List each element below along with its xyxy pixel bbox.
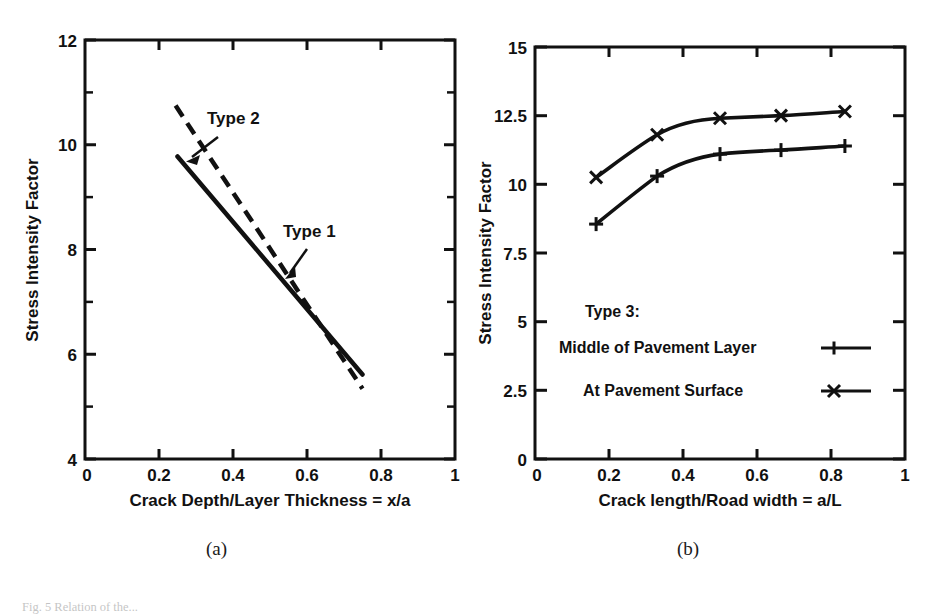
chart-panel-b: 0 2.5 5 7.5 10 12.5 15 0 0.2 0.4 0.6 0.8…: [473, 0, 946, 580]
legend-title-type-3: Type 3:: [585, 303, 640, 320]
y-tick-label-a-3: 10: [58, 136, 77, 155]
series-line-at-pavement-surface: [596, 112, 845, 178]
x-tick-label-a-1: 0.2: [147, 466, 171, 485]
y-axis-right-ticks-a: [444, 40, 455, 459]
x-tick-label-a-0: 0: [82, 466, 91, 485]
x-tick-label-b-5: 1: [900, 466, 909, 485]
y-tick-label-a-1: 6: [68, 346, 77, 365]
annotation-type-1-label: Type 1: [283, 222, 336, 241]
y-tick-label-b-4: 10: [508, 176, 527, 195]
legend-marker-at-pavement-surface: [821, 385, 871, 397]
x-tick-label-b-1: 0.2: [597, 466, 621, 485]
x-tick-label-a-5: 1: [450, 466, 459, 485]
subplot-label-b: (b): [677, 538, 699, 560]
y-axis-title-b: Stress Intensity Factor: [476, 161, 495, 345]
y-axis-ticks-b: [535, 47, 547, 459]
x-tick-label-a-3: 0.6: [295, 466, 319, 485]
y-tick-label-a-2: 8: [68, 241, 77, 260]
subplot-label-a: (a): [206, 538, 227, 560]
x-tick-label-b-0: 0: [532, 466, 541, 485]
y-tick-label-b-0: 0: [518, 451, 527, 470]
series-markers-at-pavement-surface: [590, 106, 851, 184]
y-tick-label-b-6: 15: [508, 39, 527, 58]
annotation-type-2-label: Type 2: [207, 109, 260, 128]
panel-a-svg: 4 6 8 10 12 0 0.2 0.4 0.6 0.8 1 Stress I…: [0, 0, 473, 580]
x-tick-label-a-2: 0.4: [221, 466, 245, 485]
y-tick-label-b-2: 5: [518, 313, 527, 332]
y-tick-label-b-5: 12.5: [494, 107, 527, 126]
figure-root: 4 6 8 10 12 0 0.2 0.4 0.6 0.8 1 Stress I…: [0, 0, 946, 614]
y-tick-label-b-1: 2.5: [503, 382, 527, 401]
legend-marker-middle-of-pavement-layer: [821, 342, 871, 355]
x-tick-label-b-4: 0.8: [819, 466, 843, 485]
y-axis-title-a: Stress Intensity Factor: [23, 158, 42, 342]
y-axis-major-ticks-a: [85, 40, 96, 459]
y-tick-label-a-0: 4: [68, 451, 78, 470]
chart-panel-a: 4 6 8 10 12 0 0.2 0.4 0.6 0.8 1 Stress I…: [0, 0, 473, 580]
x-tick-label-b-2: 0.4: [671, 466, 695, 485]
series-line-type-1: [178, 157, 363, 375]
x-tick-label-b-3: 0.6: [745, 466, 769, 485]
legend-label-at-pavement-surface: At Pavement Surface: [583, 382, 743, 399]
x-axis-title-a: Crack Depth/Layer Thickness = x/a: [129, 491, 411, 510]
y-tick-label-a-4: 12: [58, 32, 77, 51]
legend-label-middle-of-pavement-layer: Middle of Pavement Layer: [559, 339, 756, 356]
y-axis-right-ticks-b: [893, 47, 905, 459]
panel-b-svg: 0 2.5 5 7.5 10 12.5 15 0 0.2 0.4 0.6 0.8…: [473, 0, 946, 580]
x-axis-title-b: Crack length/Road width = a/L: [598, 491, 841, 510]
y-tick-label-b-3: 7.5: [503, 245, 527, 264]
x-tick-label-a-4: 0.8: [369, 466, 393, 485]
figure-caption: Fig. 5 Relation of the...: [22, 600, 926, 614]
annotation-type-1-arrow: [285, 249, 307, 279]
